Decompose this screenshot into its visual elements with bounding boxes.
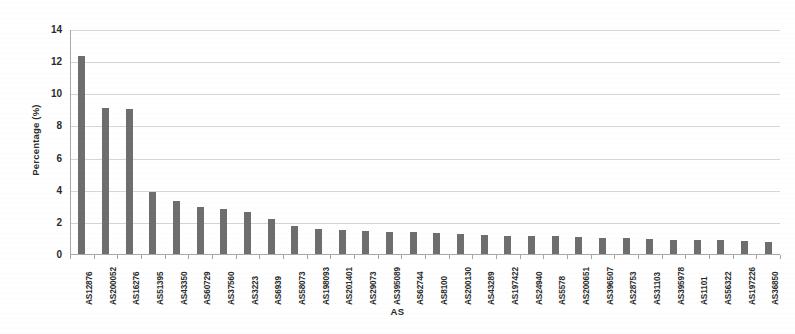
bar bbox=[433, 233, 440, 254]
y-tick-label: 14 bbox=[36, 25, 62, 35]
x-tick-label: AS62744 bbox=[416, 272, 425, 305]
bar bbox=[315, 229, 322, 254]
x-tick-label: AS60729 bbox=[203, 272, 212, 305]
x-tick-label: AS43350 bbox=[180, 272, 189, 305]
x-tick-label: AS8100 bbox=[440, 276, 449, 305]
x-tick-label: AS201401 bbox=[345, 267, 354, 305]
bar bbox=[291, 226, 298, 254]
x-tick-label: AS5578 bbox=[558, 276, 567, 305]
bar bbox=[528, 236, 535, 254]
y-tick-label: 6 bbox=[36, 154, 62, 164]
bar bbox=[339, 230, 346, 254]
bar bbox=[646, 239, 653, 254]
x-tick-label: AS37560 bbox=[227, 272, 236, 305]
x-axis-title: AS bbox=[0, 306, 795, 317]
y-tick-label: 4 bbox=[36, 186, 62, 196]
bar bbox=[268, 219, 275, 254]
x-tick-label: AS58073 bbox=[298, 272, 307, 305]
bars-series bbox=[70, 30, 780, 255]
bar bbox=[362, 231, 369, 254]
bar bbox=[575, 237, 582, 254]
x-tick-label: AS43289 bbox=[487, 272, 496, 305]
bar-chart: Percentage (%) 02468101214 AS12876AS2000… bbox=[0, 0, 795, 334]
x-tick-label: AS200651 bbox=[582, 267, 591, 305]
x-tick-mark bbox=[780, 255, 781, 259]
x-tick-label: AS16276 bbox=[132, 272, 141, 305]
x-tick-label: AS395089 bbox=[393, 267, 402, 305]
bar bbox=[599, 238, 606, 254]
x-tick-label: AS29073 bbox=[369, 272, 378, 305]
bar bbox=[741, 241, 748, 254]
plot-area bbox=[70, 30, 780, 255]
bar bbox=[623, 238, 630, 254]
y-tick-label: 12 bbox=[36, 57, 62, 67]
x-tick-label: AS200130 bbox=[464, 267, 473, 305]
x-tick-label: AS198093 bbox=[322, 267, 331, 305]
bar bbox=[457, 234, 464, 254]
x-tick-label: AS395978 bbox=[677, 267, 686, 305]
bar bbox=[197, 207, 204, 254]
bar bbox=[765, 242, 772, 254]
x-tick-label: AS197422 bbox=[511, 267, 520, 305]
bar bbox=[552, 236, 559, 254]
bar bbox=[481, 235, 488, 254]
bar bbox=[386, 232, 393, 255]
x-tick-label: AS3223 bbox=[251, 276, 260, 305]
bar bbox=[694, 240, 701, 254]
x-tick-label: AS24940 bbox=[535, 272, 544, 305]
bar bbox=[126, 109, 133, 254]
x-tick-label: AS12876 bbox=[85, 272, 94, 305]
x-tick-label: AS6939 bbox=[274, 276, 283, 305]
x-tick-label: AS51395 bbox=[156, 272, 165, 305]
y-tick-label: 10 bbox=[36, 89, 62, 99]
bar bbox=[244, 212, 251, 254]
x-tick-label: AS197226 bbox=[748, 267, 757, 305]
bar bbox=[173, 201, 180, 254]
x-tick-label: AS31103 bbox=[653, 272, 662, 305]
bar bbox=[670, 240, 677, 254]
bar bbox=[102, 108, 109, 254]
y-tick-label: 2 bbox=[36, 218, 62, 228]
x-tick-label: AS1101 bbox=[700, 276, 709, 305]
bar bbox=[78, 56, 85, 254]
bar bbox=[220, 209, 227, 254]
bar bbox=[504, 236, 511, 254]
y-tick-label: 0 bbox=[36, 250, 62, 260]
x-axis-tick-labels: AS12876AS200052AS16276AS51395AS43350AS60… bbox=[70, 259, 780, 307]
bar bbox=[410, 232, 417, 254]
x-tick-label: AS36850 bbox=[771, 272, 780, 305]
y-axis-tick-labels: 02468101214 bbox=[36, 0, 62, 334]
x-tick-label: AS396507 bbox=[606, 267, 615, 305]
bar bbox=[149, 192, 156, 254]
y-tick-label: 8 bbox=[36, 121, 62, 131]
bar bbox=[717, 240, 724, 254]
x-tick-label: AS200052 bbox=[109, 267, 118, 305]
x-tick-label: AS56322 bbox=[724, 272, 733, 305]
x-tick-label: AS28753 bbox=[629, 272, 638, 305]
